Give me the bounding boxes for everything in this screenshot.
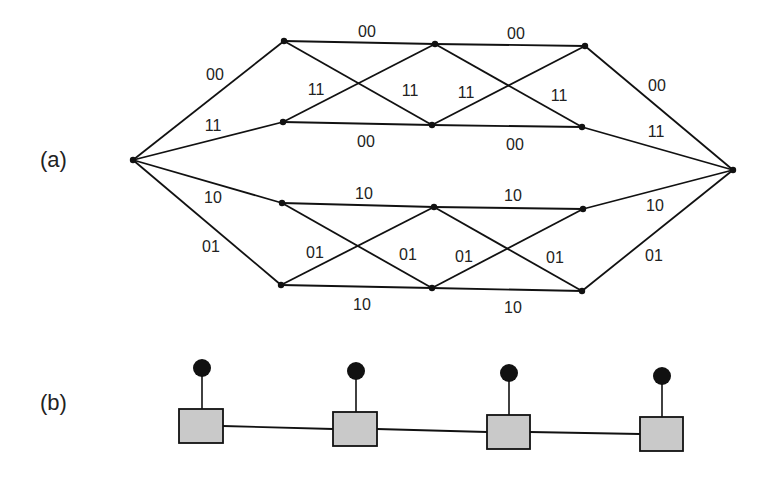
- edge-label: 01: [455, 248, 473, 265]
- edge-label: 10: [204, 189, 222, 206]
- panel-label-b: (b): [40, 390, 67, 415]
- trellis-edge: [435, 44, 585, 46]
- factor-box: [333, 412, 377, 446]
- factor-box: [640, 417, 683, 451]
- edge-label: 01: [546, 249, 564, 266]
- trellis-edge: [283, 122, 432, 125]
- edge-label: 00: [357, 133, 375, 150]
- trellis-node: [432, 41, 438, 47]
- trellis-node: [431, 204, 437, 210]
- trellis-node: [429, 285, 435, 291]
- factor-box: [487, 415, 530, 449]
- trellis-edge: [284, 41, 435, 44]
- edge-label: 11: [648, 123, 665, 140]
- chain-link: [530, 432, 640, 434]
- variable-node: [500, 364, 518, 382]
- trellis-edge: [133, 160, 281, 285]
- edge-label: 10: [504, 187, 522, 204]
- trellis-node: [130, 157, 136, 163]
- trellis-node: [582, 43, 588, 49]
- edge-label: 10: [504, 299, 522, 316]
- edge-label: 11: [402, 82, 419, 99]
- edge-label: 00: [507, 25, 525, 42]
- edge-label: 01: [306, 244, 324, 261]
- edge-label: 10: [355, 185, 373, 202]
- edge-label: 10: [646, 197, 664, 214]
- edge-label: 01: [202, 238, 220, 255]
- chain-link: [377, 429, 487, 432]
- edge-label: 01: [645, 247, 663, 264]
- edge-label: 01: [399, 246, 417, 263]
- trellis-edge: [432, 125, 582, 127]
- trellis-node: [281, 38, 287, 44]
- trellis-edge: [434, 207, 583, 209]
- trellis-node: [579, 288, 585, 294]
- edge-label: 10: [353, 296, 371, 313]
- edge-label: 11: [551, 87, 568, 104]
- trellis-edge: [281, 285, 432, 288]
- edge-label: 11: [308, 81, 325, 98]
- edge-label: 00: [206, 66, 224, 83]
- panel-label-a: (a): [40, 147, 67, 172]
- trellis-edge: [582, 170, 733, 291]
- factor-chain: [179, 359, 683, 451]
- edge-label: 00: [506, 136, 524, 153]
- trellis-node: [429, 122, 435, 128]
- chain-link: [223, 426, 333, 429]
- trellis-diagram: 0011100100111100001111000011100101101001…: [0, 0, 771, 483]
- trellis-edge: [432, 288, 582, 291]
- edge-label: 11: [205, 117, 222, 134]
- edge-labels: 0011100100111100001111000011100101101001…: [202, 23, 666, 316]
- trellis-edge: [585, 46, 733, 170]
- edge-label: 00: [648, 77, 666, 94]
- edge-label: 11: [458, 84, 475, 101]
- trellis-node: [579, 124, 585, 130]
- factor-box: [179, 409, 223, 443]
- trellis-node: [278, 282, 284, 288]
- variable-node: [347, 362, 365, 380]
- trellis-node: [730, 167, 736, 173]
- trellis-node: [580, 206, 586, 212]
- variable-node: [653, 367, 671, 385]
- trellis-edge: [133, 41, 284, 160]
- trellis-node: [279, 200, 285, 206]
- trellis-edge: [432, 46, 585, 125]
- trellis-node: [280, 119, 286, 125]
- edge-label: 00: [358, 23, 376, 40]
- variable-node: [193, 359, 211, 377]
- trellis-edge: [282, 203, 434, 207]
